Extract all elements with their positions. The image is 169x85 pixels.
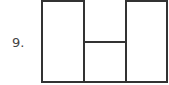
top-edge-left xyxy=(41,0,85,2)
left-edge xyxy=(41,0,43,83)
middle-horizontal-split xyxy=(83,41,127,43)
item-number: 9. xyxy=(12,36,24,50)
top-edge-right xyxy=(126,0,168,2)
right-edge xyxy=(166,0,168,83)
bottom-edge xyxy=(41,81,168,83)
